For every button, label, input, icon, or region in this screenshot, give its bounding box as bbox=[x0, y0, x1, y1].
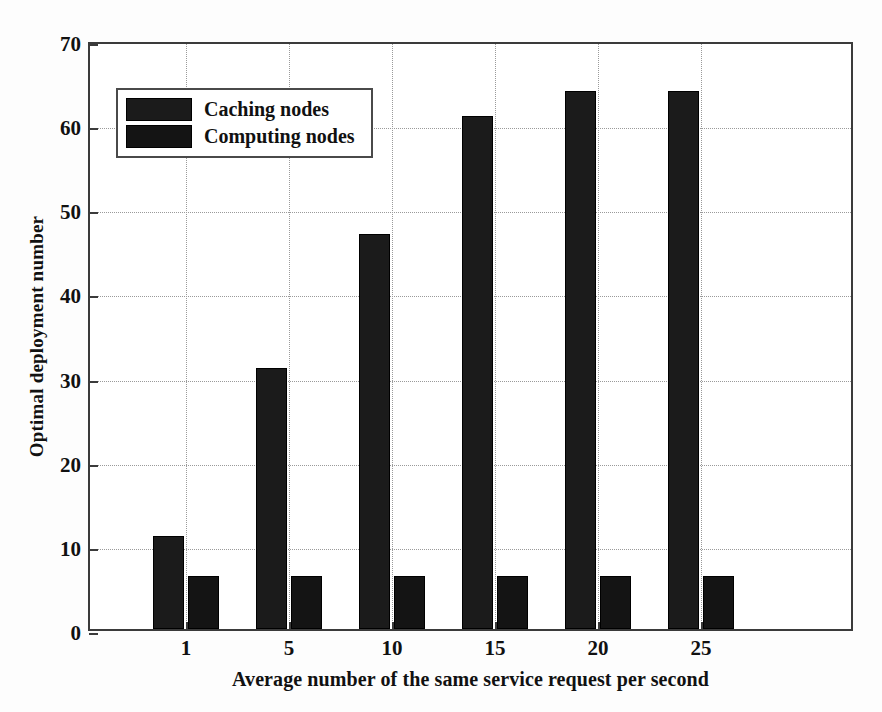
y-tick-label: 30 bbox=[21, 368, 81, 393]
legend-swatch-caching-nodes bbox=[126, 98, 192, 121]
y-tick-mark bbox=[89, 381, 98, 383]
bar-computing-nodes-10 bbox=[394, 576, 425, 629]
bar-caching-nodes-5 bbox=[256, 368, 287, 629]
y-tick-mark bbox=[89, 633, 98, 635]
legend-item-caching-nodes: Caching nodes bbox=[126, 96, 355, 123]
x-tick-label: 5 bbox=[259, 636, 319, 661]
y-tick-label: 10 bbox=[21, 536, 81, 561]
y-tick-mark bbox=[89, 296, 98, 298]
y-tick-label: 20 bbox=[21, 452, 81, 477]
x-gridline bbox=[495, 44, 496, 629]
bar-caching-nodes-20 bbox=[565, 91, 596, 630]
x-axis-title: Average number of the same service reque… bbox=[88, 668, 853, 691]
y-tick-mark bbox=[89, 549, 98, 551]
y-tick-label: 40 bbox=[21, 284, 81, 309]
bar-caching-nodes-25 bbox=[668, 91, 699, 630]
bar-computing-nodes-15 bbox=[497, 576, 528, 629]
y-tick-label: 0 bbox=[21, 621, 81, 646]
bar-computing-nodes-5 bbox=[291, 576, 322, 629]
y-tick-label: 60 bbox=[21, 116, 81, 141]
y-tick-mark bbox=[89, 44, 98, 46]
x-tick-label: 25 bbox=[671, 636, 731, 661]
x-tick-label: 10 bbox=[362, 636, 422, 661]
y-tick-label: 70 bbox=[21, 32, 81, 57]
x-gridline bbox=[392, 44, 393, 629]
bar-caching-nodes-15 bbox=[462, 116, 493, 629]
figure-canvas: Optimal deployment number 01020304050607… bbox=[0, 0, 882, 712]
bar-computing-nodes-25 bbox=[703, 576, 734, 629]
y-tick-mark bbox=[89, 212, 98, 214]
legend-label-caching-nodes: Caching nodes bbox=[204, 98, 329, 121]
x-gridline bbox=[598, 44, 599, 629]
bar-computing-nodes-1 bbox=[188, 576, 219, 629]
x-tick-label: 1 bbox=[156, 636, 216, 661]
legend-swatch-computing-nodes bbox=[126, 125, 192, 148]
bar-computing-nodes-20 bbox=[600, 576, 631, 629]
legend-label-computing-nodes: Computing nodes bbox=[204, 125, 355, 148]
y-tick-mark bbox=[89, 465, 98, 467]
y-tick-mark bbox=[89, 128, 98, 130]
chart-legend: Caching nodes Computing nodes bbox=[116, 88, 373, 158]
bar-caching-nodes-1 bbox=[153, 536, 184, 629]
bar-caching-nodes-10 bbox=[359, 234, 390, 629]
y-tick-label: 50 bbox=[21, 200, 81, 225]
x-gridline bbox=[701, 44, 702, 629]
legend-item-computing-nodes: Computing nodes bbox=[126, 123, 355, 150]
x-tick-label: 20 bbox=[568, 636, 628, 661]
x-tick-label: 15 bbox=[465, 636, 525, 661]
